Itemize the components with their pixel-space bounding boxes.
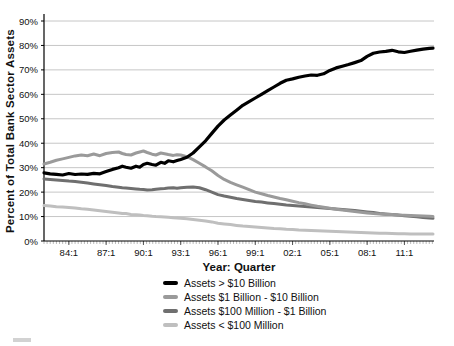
- y-tick-label: 40%: [19, 138, 39, 149]
- legend-item: Assets $100 Million - $1 Billion: [163, 304, 326, 318]
- y-tick-label: 50%: [19, 113, 39, 124]
- x-tick-label: 11:1: [396, 247, 414, 258]
- x-tick-label: 90:1: [134, 247, 153, 258]
- chart-container: 0%10%20%30%40%50%60%70%80%90%84:187:190:…: [0, 0, 454, 346]
- y-tick-label: 70%: [19, 64, 39, 75]
- y-tick-label: 30%: [19, 162, 39, 173]
- legend-swatch-light-gray-line: [163, 323, 178, 327]
- legend-label: Assets $100 Million - $1 Billion: [184, 305, 326, 317]
- x-tick-label: 93:1: [171, 247, 190, 258]
- y-tick-label: 80%: [19, 40, 39, 51]
- y-tick-label: 60%: [19, 89, 39, 100]
- x-tick-label: 87:1: [97, 247, 116, 258]
- series-line: [44, 206, 433, 234]
- legend: Assets > $10 Billion Assets $1 Billion -…: [163, 276, 326, 332]
- x-tick-label: 99:1: [246, 247, 265, 258]
- y-tick-label: 20%: [19, 187, 39, 198]
- legend-swatch-medium-gray-line: [163, 295, 178, 299]
- y-tick-label: 10%: [19, 211, 39, 222]
- x-axis-title: Year: Quarter: [44, 261, 434, 273]
- cropped-artifact: [13, 338, 31, 342]
- x-tick-label: 84:1: [60, 247, 79, 258]
- x-tick-label: 05:1: [321, 247, 340, 258]
- legend-item: Assets $1 Billion - $10 Billion: [163, 290, 326, 304]
- legend-swatch-dark-gray-line: [163, 309, 178, 313]
- y-axis-title: Percent of Total Bank Sector Assets: [2, 20, 18, 242]
- legend-label: Assets > $10 Billion: [184, 277, 276, 289]
- legend-label: Assets < $100 Million: [184, 319, 284, 331]
- legend-item: Assets < $100 Million: [163, 318, 326, 332]
- legend-item: Assets > $10 Billion: [163, 276, 326, 290]
- y-tick-label: 0%: [24, 236, 38, 247]
- x-tick-label: 96:1: [209, 247, 228, 258]
- y-tick-label: 90%: [19, 16, 39, 27]
- legend-label: Assets $1 Billion - $10 Billion: [184, 291, 319, 303]
- legend-swatch-black-line: [163, 281, 178, 285]
- x-tick-label: 02:1: [283, 247, 302, 258]
- x-tick-label: 08:1: [358, 247, 377, 258]
